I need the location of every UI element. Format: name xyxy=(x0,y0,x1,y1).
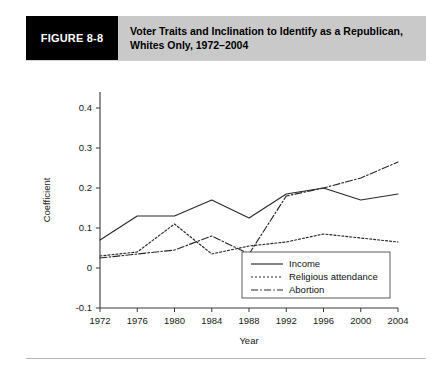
x-tick-label: 2004 xyxy=(387,315,408,326)
x-tick-label: 1988 xyxy=(238,315,259,326)
chart-container: -0.100.10.20.30.4 1972197619801984198819… xyxy=(26,70,426,359)
figure-number-tag: FIGURE 8-8 xyxy=(26,16,118,60)
y-tick-label: 0.2 xyxy=(79,182,92,193)
series-line-income xyxy=(100,188,398,240)
line-chart: -0.100.10.20.30.4 1972197619801984198819… xyxy=(26,70,426,358)
y-axis-ticks: -0.100.10.20.30.4 xyxy=(76,102,100,313)
series-line-religious-attendance xyxy=(100,224,398,256)
chart-legend: IncomeReligious attendanceAbortion xyxy=(242,252,390,298)
legend-label-abortion: Abortion xyxy=(289,284,324,295)
x-tick-label: 1992 xyxy=(276,315,297,326)
y-tick-label: 0.1 xyxy=(79,222,92,233)
x-tick-label: 1972 xyxy=(89,315,110,326)
x-axis-title: Year xyxy=(239,335,258,346)
legend-label-income: Income xyxy=(289,258,320,269)
y-axis-title: Coefficient xyxy=(41,177,52,222)
x-tick-label: 2000 xyxy=(350,315,371,326)
y-tick-label: 0.4 xyxy=(79,102,92,113)
y-tick-label: 0 xyxy=(87,262,92,273)
x-axis-ticks: 197219761980198419881992199620002004 xyxy=(89,308,408,326)
x-tick-label: 1976 xyxy=(127,315,148,326)
figure-title: Voter Traits and Inclination to Identify… xyxy=(118,16,426,60)
y-tick-label: 0.3 xyxy=(79,142,92,153)
x-tick-label: 1980 xyxy=(164,315,185,326)
figure-header: FIGURE 8-8 Voter Traits and Inclination … xyxy=(26,16,426,60)
series-line-abortion xyxy=(100,162,398,258)
y-tick-label: -0.1 xyxy=(76,302,92,313)
legend-label-religious-attendance: Religious attendance xyxy=(289,271,378,282)
x-tick-label: 1984 xyxy=(201,315,222,326)
data-series-group xyxy=(100,162,398,258)
x-tick-label: 1996 xyxy=(313,315,334,326)
